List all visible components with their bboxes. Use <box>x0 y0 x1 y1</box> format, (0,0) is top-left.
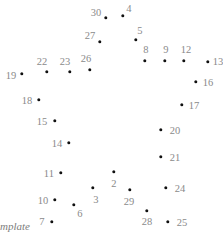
puzzle-dot <box>145 209 148 212</box>
puzzle-dot <box>206 60 209 63</box>
puzzle-dot-label: 2 <box>111 179 116 190</box>
watermark-text: mplate <box>0 221 30 232</box>
puzzle-dot <box>20 72 23 75</box>
puzzle-dot <box>159 155 162 158</box>
puzzle-dot <box>159 128 162 131</box>
puzzle-dot-label: 17 <box>189 101 200 112</box>
puzzle-dot <box>121 14 124 17</box>
puzzle-dot-label: 8 <box>143 45 148 56</box>
puzzle-dot-label: 10 <box>38 196 49 207</box>
puzzle-dot-label: 14 <box>52 139 63 150</box>
puzzle-dot <box>98 40 101 43</box>
puzzle-dot <box>180 103 183 106</box>
puzzle-dot-label: 9 <box>163 45 168 56</box>
puzzle-dot-label: 24 <box>175 184 186 195</box>
puzzle-dot <box>163 59 166 62</box>
puzzle-dot <box>112 170 115 173</box>
puzzle-dot <box>128 188 131 191</box>
puzzle-dot <box>72 203 75 206</box>
puzzle-dot <box>59 171 62 174</box>
puzzle-dot <box>50 220 53 223</box>
puzzle-dot <box>194 80 197 83</box>
puzzle-dot-label: 16 <box>203 78 214 89</box>
puzzle-dot-label: 25 <box>177 218 188 229</box>
puzzle-dot-label: 18 <box>22 96 33 107</box>
puzzle-dot-label: 20 <box>170 126 181 137</box>
puzzle-dot-label: 29 <box>124 197 135 208</box>
puzzle-dot-label: 7 <box>39 217 44 228</box>
puzzle-dot-label: 23 <box>60 57 71 68</box>
puzzle-dot <box>182 59 185 62</box>
puzzle-dot <box>67 141 70 144</box>
puzzle-dot-label: 30 <box>91 8 102 19</box>
puzzle-dot <box>166 220 169 223</box>
puzzle-dot-label: 26 <box>81 54 92 65</box>
puzzle-dot <box>88 68 91 71</box>
puzzle-dot-label: 27 <box>85 31 96 42</box>
puzzle-dot <box>134 38 137 41</box>
puzzle-dot <box>91 186 94 189</box>
puzzle-dot-label: 28 <box>142 217 153 228</box>
puzzle-dot-label: 11 <box>44 169 54 180</box>
connect-the-dots-puzzle: 2345678910111213141516171819202122232425… <box>0 0 223 234</box>
puzzle-dot-label: 22 <box>37 57 48 68</box>
puzzle-dot-label: 4 <box>126 4 131 15</box>
puzzle-dot-label: 19 <box>6 71 17 82</box>
puzzle-dot-label: 15 <box>37 117 48 128</box>
puzzle-dot-label: 12 <box>181 45 192 56</box>
puzzle-dot <box>143 59 146 62</box>
puzzle-dot <box>37 98 40 101</box>
puzzle-dot <box>68 70 71 73</box>
puzzle-dot <box>53 198 56 201</box>
puzzle-dot <box>53 119 56 122</box>
puzzle-dot-label: 13 <box>213 57 223 68</box>
puzzle-dot-label: 3 <box>93 195 98 206</box>
puzzle-dot <box>164 186 167 189</box>
puzzle-dot-label: 6 <box>77 209 82 220</box>
puzzle-dot-label: 5 <box>137 26 142 37</box>
puzzle-dot-label: 21 <box>170 153 181 164</box>
puzzle-dot <box>45 70 48 73</box>
puzzle-dot <box>104 16 107 19</box>
